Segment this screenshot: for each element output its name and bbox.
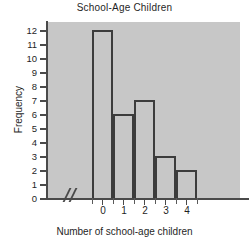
bar-0 bbox=[92, 30, 113, 198]
axis-break-icon bbox=[62, 188, 82, 202]
y-tick-4 bbox=[40, 142, 47, 144]
x-tick-edge-3 bbox=[155, 198, 156, 204]
x-tick-label-3: 3 bbox=[156, 205, 176, 216]
bar-1 bbox=[113, 114, 134, 198]
x-tick-edge-2 bbox=[134, 198, 135, 204]
y-tick-2 bbox=[40, 170, 47, 172]
y-tick-9 bbox=[40, 72, 47, 74]
y-axis-line bbox=[46, 21, 48, 200]
x-tick-label-2: 2 bbox=[135, 205, 155, 216]
y-axis-title: Frequency bbox=[13, 40, 24, 180]
y-tick-7 bbox=[40, 100, 47, 102]
y-tick-12 bbox=[40, 30, 47, 32]
x-tick-label-0: 0 bbox=[93, 205, 113, 216]
y-tick-label-1: 1 bbox=[0, 180, 37, 190]
chart-title: School-Age Children bbox=[0, 2, 249, 13]
x-tick-4 bbox=[186, 198, 187, 205]
y-tick-11 bbox=[40, 44, 47, 46]
x-tick-edge-1 bbox=[113, 198, 114, 204]
y-tick-label-12: 12 bbox=[0, 26, 37, 36]
x-axis-title: Number of school-age children bbox=[0, 226, 249, 237]
x-tick-label-4: 4 bbox=[177, 205, 197, 216]
bar-3 bbox=[155, 156, 176, 198]
x-tick-3 bbox=[165, 198, 166, 205]
y-tick-8 bbox=[40, 86, 47, 88]
x-tick-1 bbox=[123, 198, 124, 205]
x-tick-edge-4 bbox=[176, 198, 177, 204]
x-tick-edge-5 bbox=[197, 198, 198, 204]
x-tick-label-1: 1 bbox=[114, 205, 134, 216]
bar-4 bbox=[176, 170, 197, 198]
y-tick-5 bbox=[40, 128, 47, 130]
y-tick-1 bbox=[40, 184, 47, 186]
bar-2 bbox=[134, 100, 155, 198]
y-tick-3 bbox=[40, 156, 47, 158]
y-tick-label-0: 0 bbox=[0, 194, 37, 204]
x-tick-2 bbox=[144, 198, 145, 205]
y-tick-10 bbox=[40, 58, 47, 60]
y-tick-0 bbox=[40, 198, 47, 200]
x-tick-edge-0 bbox=[92, 198, 93, 204]
histogram-chart: School-Age Children 0 1 2 3 4 5 6 7 8 9 … bbox=[0, 0, 249, 245]
y-tick-6 bbox=[40, 114, 47, 116]
x-tick-0 bbox=[102, 198, 103, 205]
